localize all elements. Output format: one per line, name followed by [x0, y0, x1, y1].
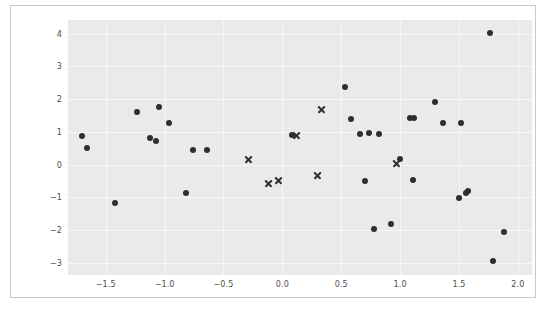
gridline-vertical — [459, 20, 460, 275]
gridline-vertical — [400, 20, 401, 275]
plot-area — [68, 20, 532, 275]
data-point-circle — [456, 195, 462, 201]
gridline-horizontal — [68, 197, 532, 198]
data-point-circle — [487, 30, 493, 36]
data-point-circle — [79, 133, 85, 139]
data-point-circle — [183, 190, 189, 196]
gridline-horizontal — [68, 263, 532, 264]
data-point-cross — [244, 155, 253, 164]
data-point-circle — [84, 145, 90, 151]
x-axis-tick-label: 1.0 — [394, 280, 407, 289]
x-axis-tick-label: 2.0 — [511, 280, 524, 289]
x-axis-tick-label: 0.5 — [335, 280, 348, 289]
data-point-circle — [376, 131, 382, 137]
y-axis-tick-label: −3 — [38, 258, 62, 267]
data-point-circle — [204, 147, 210, 153]
data-point-circle — [388, 221, 394, 227]
figure-frame: −1.5−1.0−0.50.00.51.01.52.043210−1−2−3 — [10, 5, 536, 298]
y-axis-tick-label: 2 — [38, 95, 62, 104]
data-point-circle — [432, 99, 438, 105]
gridline-vertical — [282, 20, 283, 275]
data-point-circle — [156, 104, 162, 110]
y-axis-tick-label: 0 — [38, 160, 62, 169]
data-point-circle — [501, 229, 507, 235]
gridline-vertical — [518, 20, 519, 275]
data-point-circle — [134, 109, 140, 115]
data-point-circle — [342, 84, 348, 90]
gridline-horizontal — [68, 34, 532, 35]
gridline-vertical — [106, 20, 107, 275]
data-point-circle — [410, 177, 416, 183]
y-axis-tick-label: −1 — [38, 193, 62, 202]
gridline-horizontal — [68, 99, 532, 100]
y-axis-tick-label: 1 — [38, 127, 62, 136]
x-axis-tick-label: 0.0 — [276, 280, 289, 289]
gridline-horizontal — [68, 165, 532, 166]
x-axis-tick-label: 1.5 — [452, 280, 465, 289]
data-point-circle — [371, 226, 377, 232]
data-point-circle — [112, 200, 118, 206]
data-point-cross — [313, 171, 322, 180]
data-point-circle — [366, 130, 372, 136]
x-axis-tick-label: −1.5 — [96, 280, 116, 289]
figure-canvas: −1.5−1.0−0.50.00.51.01.52.043210−1−2−3 — [0, 0, 547, 310]
data-point-cross — [292, 131, 301, 140]
x-axis-tick-label: −1.0 — [155, 280, 175, 289]
data-point-circle — [357, 131, 363, 137]
gridline-vertical — [341, 20, 342, 275]
data-point-cross — [264, 179, 273, 188]
data-point-circle — [411, 115, 417, 121]
x-axis-tick-label: −0.5 — [214, 280, 234, 289]
data-point-circle — [190, 147, 196, 153]
y-axis-tick-label: −2 — [38, 225, 62, 234]
gridline-horizontal — [68, 66, 532, 67]
data-point-circle — [153, 138, 159, 144]
data-point-circle — [465, 188, 471, 194]
y-axis-tick-label: 4 — [38, 29, 62, 38]
gridline-vertical — [223, 20, 224, 275]
data-point-cross — [317, 105, 326, 114]
gridline-vertical — [165, 20, 166, 275]
data-point-circle — [166, 120, 172, 126]
data-point-cross — [392, 159, 401, 168]
gridline-horizontal — [68, 230, 532, 231]
data-point-circle — [362, 178, 368, 184]
data-point-circle — [440, 120, 446, 126]
data-point-cross — [274, 176, 283, 185]
data-point-circle — [458, 120, 464, 126]
data-point-circle — [348, 116, 354, 122]
y-axis-tick-label: 3 — [38, 62, 62, 71]
data-point-circle — [490, 258, 496, 264]
